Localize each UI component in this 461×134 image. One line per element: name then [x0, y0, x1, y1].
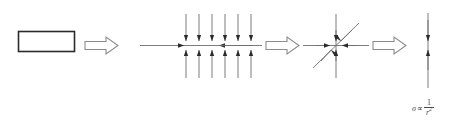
transition-arrow-2: [266, 37, 299, 54]
stage-rectangle-block: [19, 32, 75, 52]
field-lines-bottom: [186, 50, 251, 78]
formula-fraction: 1r2: [424, 98, 434, 118]
formula-denominator: r2: [424, 108, 434, 118]
formula-proportional-sign: ∝: [416, 104, 424, 113]
convergence-arrow-diag-upright: [321, 50, 331, 61]
stage-distributed-load: [140, 14, 262, 78]
transition-arrow-3: [373, 37, 406, 54]
formula-denominator-exponent: 2: [429, 106, 432, 112]
convergence-arrow-diag-downleft: [341, 30, 352, 41]
field-lines-top: [186, 14, 251, 41]
transition-arrow-1: [85, 37, 118, 54]
rectangle-outline: [19, 32, 75, 52]
stress-concentration-figure: [0, 0, 461, 134]
block-arrow-right-icon: [266, 37, 299, 54]
block-arrow-right-icon: [85, 37, 118, 54]
stage-point-convergence: [303, 14, 369, 78]
diagram-canvas: σ∝1r2: [0, 0, 461, 134]
block-arrow-right-icon: [373, 37, 406, 54]
stress-scaling-formula: σ∝1r2: [412, 99, 434, 119]
